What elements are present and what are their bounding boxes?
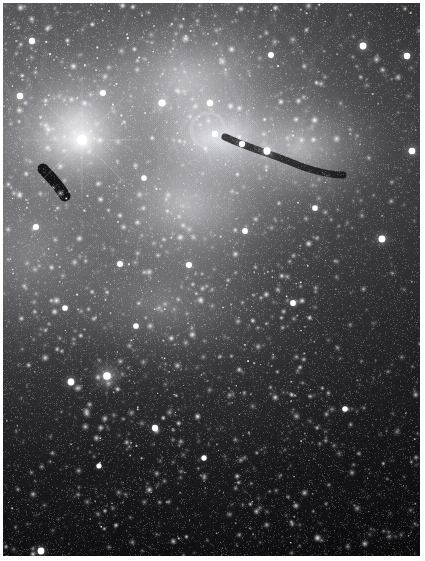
film-grain-layer bbox=[3, 3, 420, 556]
sky-field bbox=[3, 3, 420, 556]
photographic-plate bbox=[0, 0, 425, 561]
